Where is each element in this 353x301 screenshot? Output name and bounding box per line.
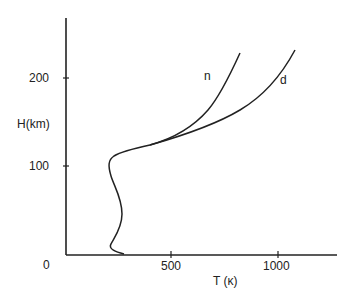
curve-label-d: d [280,73,287,87]
curve-lower [109,145,150,254]
x-axis-label: T (κ) [213,274,237,288]
y-tick-label-200: 200 [29,71,49,85]
x-tick-label-1000: 1000 [263,259,290,273]
y-axis-label: H(km) [17,117,50,131]
origin-label: 0 [43,258,50,272]
curve-label-n: n [204,69,211,83]
x-tick-label-500: 500 [161,259,181,273]
y-tick-label-100: 100 [29,159,49,173]
temperature-profile-chart [0,0,353,301]
curve-d [150,50,295,145]
